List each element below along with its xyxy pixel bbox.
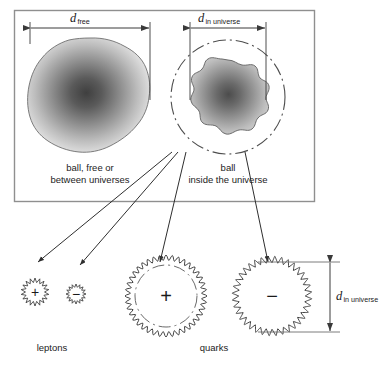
dim-subscript: free [76,17,90,26]
caption-ball-free-line1: ball, free or [50,162,129,174]
dim-label-d-in-universe-right: din universe [336,286,378,304]
ball-in-universe [171,40,285,154]
dim-label-d-free: dfree [70,8,90,26]
dim-subscript: in universe [342,295,378,304]
caption-ball-free-line2: between universes [50,174,129,186]
caption-ball-in-universe: ball inside the universe [188,162,267,186]
ball-free [28,38,150,152]
quarks-label: quarks [200,342,229,354]
ball-free-body [28,38,150,152]
lepton-positive-charge: + [31,285,39,299]
ball-in-universe-body [191,58,269,134]
lepton-negative-charge: − [72,287,80,301]
diagram-canvas: dfree din universe din universe ball, fr… [0,0,392,371]
quark-negative-charge: − [266,286,278,306]
caption-ball-in-universe-line2: inside the universe [188,174,267,186]
dim-subscript: in universe [204,17,240,26]
dim-label-d-in-universe-top: din universe [198,8,240,26]
quark-positive-charge: + [160,286,172,306]
caption-ball-free: ball, free or between universes [50,162,129,186]
caption-ball-in-universe-line1: ball [188,162,267,174]
leptons-label: leptons [37,342,68,354]
